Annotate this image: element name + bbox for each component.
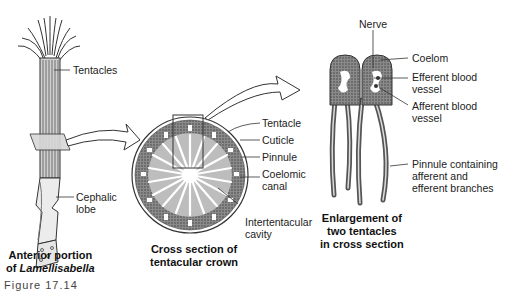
tentacle-enlargement-illustration — [330, 55, 392, 203]
crown-cross-section-illustration — [132, 115, 248, 233]
label-coelomic-canal: Coelomic canal — [262, 168, 306, 192]
arrow-to-enlargement — [205, 76, 300, 120]
label-pinnule-branches: Pinnule containing afferent and efferent… — [412, 158, 498, 194]
label-intertentacular-cavity: Intertentacular cavity — [245, 216, 312, 240]
figure-caption: Figure 17.14 — [4, 279, 78, 291]
label-tentacle: Tentacle — [262, 117, 301, 129]
label-cephalic-lobe: Cephalic lobe — [76, 191, 117, 215]
caption-enlargement: Enlargement of two tentacles in cross se… — [320, 212, 404, 251]
label-tentacles: Tentacles — [73, 64, 117, 76]
label-nerve: Nerve — [359, 18, 387, 30]
label-pinnule: Pinnule — [262, 151, 297, 163]
label-efferent-blood-vessel: Efferent blood vessel — [412, 71, 477, 95]
label-afferent-blood-vessel: Afferent blood vessel — [412, 100, 477, 124]
arrow-to-cross-section — [66, 124, 140, 150]
label-cuticle: Cuticle — [262, 134, 294, 146]
caption-cross-section: Cross section of tentacular crown — [150, 243, 238, 269]
label-coelom: Coelom — [412, 52, 448, 64]
caption-anterior-portion: Anterior portion of Lamellisabella — [6, 249, 95, 275]
